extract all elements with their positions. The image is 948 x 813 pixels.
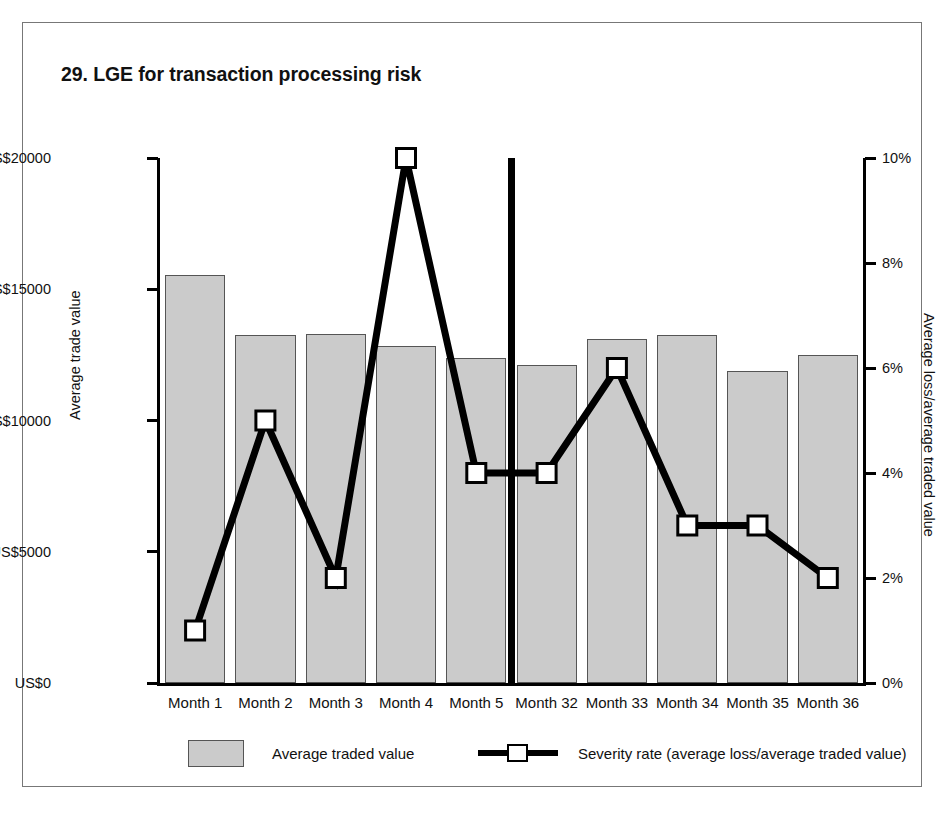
left-axis-title: Average trade value <box>67 290 83 420</box>
severity-rate-markers: Month 1: 1%Month 2: 5%Month 3: 2%Month 4… <box>186 149 838 641</box>
severity-marker-month-35[interactable]: Month 35: 3% <box>748 516 767 535</box>
x-tick-label-month-4: Month 4 <box>379 694 433 711</box>
figure-frame: 29. LGE for transaction processing risk … <box>22 22 922 787</box>
right-axis-line <box>863 158 866 683</box>
x-tick-label-month-32: Month 32 <box>515 694 578 711</box>
severity-marker-month-34[interactable]: Month 34: 3% <box>678 516 697 535</box>
left-axis-tick-label: US$0 <box>15 675 51 691</box>
legend-item-average-traded-value: Average traded value <box>188 733 414 773</box>
x-tick-label-month-1: Month 1 <box>168 694 222 711</box>
right-axis-tick <box>865 472 876 475</box>
x-tick-label-month-2: Month 2 <box>238 694 292 711</box>
severity-marker-month-3[interactable]: Month 3: 2% <box>326 569 345 588</box>
severity-marker-month-4[interactable]: Month 4: 10% <box>397 149 416 168</box>
severity-rate-line <box>195 158 828 631</box>
right-axis-tick-label: 4% <box>882 465 903 481</box>
right-axis-tick <box>865 682 876 685</box>
right-axis-tick-label: 2% <box>882 570 903 586</box>
severity-marker-month-32[interactable]: Month 32: 4% <box>537 464 556 483</box>
left-axis-tick-label: US$15000 <box>0 281 51 297</box>
legend-item-severity-rate: Severity rate (average loss/average trad… <box>478 733 907 773</box>
x-tick-label-month-36: Month 36 <box>797 694 860 711</box>
left-axis-tick-label: US$5000 <box>0 544 51 560</box>
right-axis-tick <box>865 577 876 580</box>
right-axis-tick <box>865 367 876 370</box>
legend-label-severity-rate: Severity rate (average loss/average trad… <box>578 745 907 762</box>
legend-label-average-traded-value: Average traded value <box>272 745 414 762</box>
severity-marker-month-5[interactable]: Month 5: 4% <box>467 464 486 483</box>
legend-line-marker-icon <box>478 741 558 765</box>
left-axis-tick-label: US$20000 <box>0 150 51 166</box>
severity-marker-month-2[interactable]: Month 2: 5% <box>256 411 275 430</box>
left-axis-tick <box>147 682 158 685</box>
x-tick-label-month-35: Month 35 <box>726 694 789 711</box>
right-axis-tick <box>865 262 876 265</box>
severity-marker-month-33[interactable]: Month 33: 6% <box>607 359 626 378</box>
x-tick-label-month-34: Month 34 <box>656 694 719 711</box>
severity-marker-month-36[interactable]: Month 36: 2% <box>818 569 837 588</box>
x-axis-line <box>157 683 866 686</box>
left-axis-tick <box>147 419 158 422</box>
right-axis-tick-label: 10% <box>882 150 911 166</box>
x-tick-label-month-5: Month 5 <box>449 694 503 711</box>
plot-area: US$0US$5000US$10000US$15000US$20000 0%2%… <box>160 158 863 683</box>
line-series-layer: Month 1: 1%Month 2: 5%Month 3: 2%Month 4… <box>160 158 863 683</box>
right-axis-tick <box>865 157 876 160</box>
chart-legend: Average traded value Severity rate (aver… <box>160 733 863 793</box>
severity-marker-month-1[interactable]: Month 1: 1% <box>186 621 205 640</box>
right-axis-tick-label: 0% <box>882 675 903 691</box>
left-axis-tick <box>147 288 158 291</box>
legend-bar-swatch-icon <box>188 740 244 767</box>
right-axis-tick-label: 6% <box>882 360 903 376</box>
left-axis-tick-label: US$10000 <box>0 413 51 429</box>
x-tick-label-month-3: Month 3 <box>309 694 363 711</box>
chart-title: 29. LGE for transaction processing risk <box>61 63 421 86</box>
right-axis-title: Average loss/average traded value <box>921 313 937 537</box>
right-axis-tick-label: 8% <box>882 255 903 271</box>
left-axis-tick <box>147 157 158 160</box>
left-axis-tick <box>147 550 158 553</box>
x-tick-label-month-33: Month 33 <box>586 694 649 711</box>
